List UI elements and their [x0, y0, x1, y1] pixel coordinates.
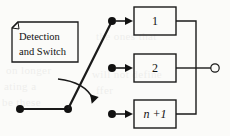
channel-1-input-dot	[108, 17, 116, 25]
channel-2-label: 2	[152, 61, 158, 75]
channel-row-2: 2	[108, 54, 196, 82]
channel-1-label: 1	[152, 14, 158, 28]
channel-n-arrowhead	[125, 110, 133, 118]
detection-block-folded-corner	[12, 22, 19, 29]
channel-row-1: 1	[108, 7, 196, 68]
detection-and-switch-block: Detection and Switch	[12, 22, 78, 62]
input-terminal-dot	[16, 105, 24, 113]
channel-1-output-lead	[176, 21, 196, 68]
channel-row-n-plus-1: n +1	[108, 68, 196, 128]
channel-1-arrowhead	[125, 17, 133, 25]
channel-n-output-lead	[176, 68, 196, 114]
channel-2-arrowhead	[125, 64, 133, 72]
rotation-arrow-head	[87, 94, 98, 105]
switch-input-group	[16, 105, 72, 113]
channel-2-input-dot	[108, 64, 116, 72]
detection-block-line2: and Switch	[19, 46, 67, 57]
channel-n-input-dot	[108, 110, 116, 118]
output-terminal-circle	[211, 64, 219, 72]
detection-block-fold-edge	[12, 22, 18, 28]
switch-rotation-arrow	[58, 79, 99, 105]
channel-n-label: n +1	[143, 107, 166, 121]
output-group	[196, 64, 219, 72]
detection-block-line1: Detection	[19, 31, 61, 42]
figure-container: the ones that on longer ating a be these…	[0, 0, 230, 136]
switch-arm-line	[68, 21, 112, 109]
